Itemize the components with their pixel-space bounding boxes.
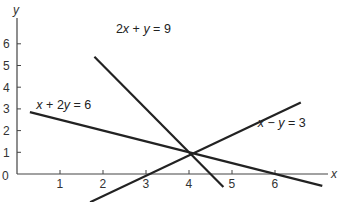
x-tick-label: 1 — [57, 177, 64, 191]
equation-labels: 2x + y = 9x + 2y = 6x − y = 3 — [35, 22, 306, 130]
x-axis-label: x — [330, 167, 338, 181]
y-tick-label: 4 — [3, 81, 10, 95]
x-tick-label: 4 — [186, 177, 193, 191]
y-tick-label: 5 — [3, 59, 10, 73]
line-2x-y-9 — [94, 57, 223, 187]
y-tick-label: 2 — [3, 124, 10, 138]
origin-label: 0 — [2, 169, 9, 183]
equation-label: x + 2y = 6 — [35, 98, 91, 112]
y-tick-label: 6 — [3, 37, 10, 51]
x-tick-label: 6 — [272, 177, 279, 191]
x-tick-label: 3 — [143, 177, 150, 191]
y-axis-label: y — [12, 3, 20, 17]
linear-equations-chart: xy0123456123456 2x + y = 9x + 2y = 6x − … — [0, 0, 338, 202]
equation-label: x − y = 3 — [257, 116, 306, 130]
equation-label: 2x + y = 9 — [116, 22, 171, 36]
x-tick-label: 2 — [100, 177, 107, 191]
y-tick-label: 3 — [3, 102, 10, 116]
y-tick-label: 1 — [3, 146, 10, 160]
x-tick-label: 5 — [229, 177, 236, 191]
